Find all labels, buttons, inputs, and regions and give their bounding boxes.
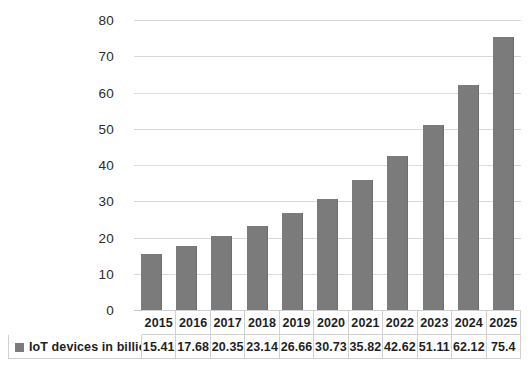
bar-slot	[310, 20, 345, 310]
y-axis-tick-label: 30	[99, 194, 114, 209]
bar	[387, 156, 408, 310]
bar	[176, 246, 197, 310]
y-axis-tick-label: 70	[99, 49, 114, 64]
legend-label: IoT devices in billions	[29, 340, 142, 354]
bar-slot	[204, 20, 239, 310]
table-cell-value: 35.82	[348, 335, 382, 359]
table-column-header: 2023	[417, 311, 451, 335]
table-column-header: 2021	[348, 311, 382, 335]
table-cell-value: 42.62	[383, 335, 417, 359]
bar-slot	[486, 20, 521, 310]
table-column-header: 2025	[486, 311, 520, 335]
bar	[282, 213, 303, 310]
bar	[458, 85, 479, 310]
table-column-header: 2016	[176, 311, 210, 335]
table-cell-value: 20.35	[210, 335, 244, 359]
table-column-header: 2018	[245, 311, 279, 335]
bar-slot	[134, 20, 169, 310]
bar-slot	[451, 20, 486, 310]
table-column-header: 2015	[142, 311, 176, 335]
table-cell-value: 30.73	[314, 335, 348, 359]
table-cell-value: 75.4	[486, 335, 520, 359]
bar	[211, 236, 232, 310]
bar	[141, 254, 162, 310]
table-cell-value: 15.41	[142, 335, 176, 359]
table-row: IoT devices in billions15.4117.6820.3523…	[9, 335, 521, 359]
legend-entry: IoT devices in billions	[9, 335, 142, 359]
legend-swatch-icon	[15, 343, 24, 352]
bar-slot	[380, 20, 415, 310]
plot-area	[134, 20, 521, 310]
table-row: 2015201620172018201920202021202220232024…	[9, 311, 521, 335]
table-cell-value: 26.66	[279, 335, 313, 359]
table-cell-value: 51.11	[417, 335, 451, 359]
bar	[423, 125, 444, 310]
bar-slot	[416, 20, 451, 310]
table-column-header: 2019	[279, 311, 313, 335]
data-table: 2015201620172018201920202021202220232024…	[8, 310, 521, 359]
y-axis: 80706050403020100	[0, 0, 134, 330]
y-axis-tick-label: 40	[99, 158, 114, 173]
table-cell-value: 17.68	[176, 335, 210, 359]
bar-chart-figure: 80706050403020100 2015201620172018201920…	[0, 0, 532, 369]
bar	[352, 180, 373, 310]
table-column-header: 2024	[452, 311, 486, 335]
bar	[493, 37, 514, 310]
y-axis-tick-label: 50	[99, 121, 114, 136]
y-axis-tick-label: 80	[99, 13, 114, 28]
bar	[247, 226, 268, 310]
table-cell-value: 23.14	[245, 335, 279, 359]
table-corner-cell	[9, 311, 142, 335]
bars-group	[134, 20, 521, 310]
bar-slot	[345, 20, 380, 310]
bar-slot	[240, 20, 275, 310]
table-cell-value: 62.12	[452, 335, 486, 359]
bar-slot	[169, 20, 204, 310]
y-axis-tick-label: 20	[99, 230, 114, 245]
bar	[317, 199, 338, 310]
y-axis-tick-label: 60	[99, 85, 114, 100]
y-axis-tick-label: 10	[99, 266, 114, 281]
table-column-header: 2017	[210, 311, 244, 335]
table-column-header: 2020	[314, 311, 348, 335]
table-column-header: 2022	[383, 311, 417, 335]
bar-slot	[275, 20, 310, 310]
